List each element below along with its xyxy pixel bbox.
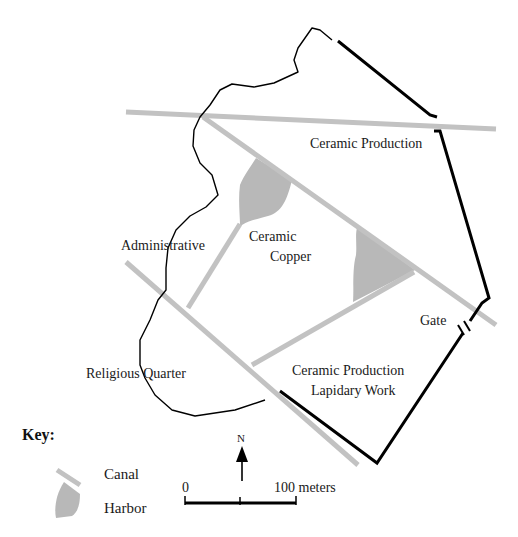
label-copper: Copper: [270, 249, 311, 265]
key-label-harbor: Harbor: [104, 500, 146, 516]
gate-tick-2: [464, 321, 470, 331]
north-arrow-label: N: [237, 430, 245, 446]
scale-start-label: 0: [182, 480, 189, 496]
label-lapidary-work: Lapidary Work: [311, 383, 396, 399]
key-label-canal: Canal: [104, 466, 139, 482]
scale-end-label: 100 meters: [274, 480, 336, 496]
wall-north-segment: [338, 41, 437, 117]
key-canal-symbol: [57, 470, 80, 485]
label-religious-quarter: Religious Quarter: [86, 366, 186, 382]
label-administrative: Administrative: [121, 238, 205, 254]
label-gate: Gate: [420, 313, 446, 329]
label-ceramic-production-north: Ceramic Production: [310, 136, 422, 152]
key-title: Key:: [22, 426, 55, 444]
canal-branch-east: [252, 272, 414, 365]
canal-branch-west: [188, 224, 240, 308]
label-ceramic: Ceramic: [249, 229, 296, 245]
harbor-north: [239, 158, 292, 225]
key-harbor-symbol: [55, 482, 80, 518]
site-map: [0, 0, 518, 537]
label-ceramic-production-south: Ceramic Production: [292, 363, 404, 379]
wall-east-segment: [434, 131, 489, 321]
canal-north: [126, 112, 496, 129]
scale-bar: [185, 496, 296, 505]
north-arrow-icon: [236, 446, 248, 462]
